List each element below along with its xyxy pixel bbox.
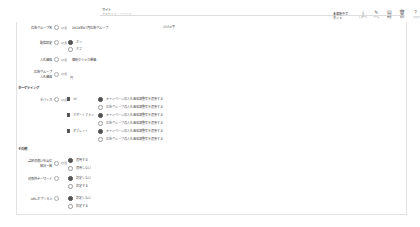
pc-campaign-radio[interactable]: キャンペーンの入札価格調整率を適用する — [98, 97, 163, 102]
exclude-none-radio[interactable]: 設定しない — [68, 176, 91, 181]
help-circle-icon[interactable] — [54, 176, 59, 181]
toolbar: 未編集中ボタン ▾ ⤓レポート ✎ツール ▤管理 🗑削除 ?ヘルプ — [333, 10, 420, 20]
help-circle-icon[interactable] — [54, 72, 59, 77]
sp-adgroup-radio[interactable]: 広告グループの入札価格調整率を適用する — [98, 121, 163, 126]
devices-row: デバイス 必須 — [16, 97, 69, 102]
device-smartphone-checkbox[interactable]: スマートフォン — [67, 113, 94, 117]
pc-adgroup-radio[interactable]: 広告グループの入札価格調整率を適用する — [98, 105, 163, 110]
ad-group-name-input[interactable]: 2019年07月広告グループ — [72, 25, 108, 30]
help-circle-icon[interactable] — [54, 40, 59, 45]
bid-input[interactable]: 円 — [70, 76, 73, 80]
report-button[interactable]: ⤓レポート — [359, 10, 368, 19]
device-tablet-checkbox[interactable]: タブレット — [67, 129, 88, 133]
help-button[interactable]: ?ヘルプ — [411, 10, 420, 19]
char-counter: 15/50字 — [163, 25, 175, 29]
url-none-radio[interactable]: 設定しない — [68, 196, 91, 201]
status-dropdown[interactable]: 未編集中ボタン ▾ — [333, 12, 351, 20]
phrase-match-row: 語順の違いを含む 部分一致 必須 — [16, 158, 69, 168]
help-circle-icon[interactable] — [54, 57, 59, 62]
tab-campaign-radio[interactable]: キャンペーンの入札価格調整率を適用する — [98, 129, 163, 134]
phrase-apply-radio[interactable]: 適用する — [68, 158, 88, 163]
page-subtitle: アカウント・ソリッド — [102, 12, 132, 16]
sp-campaign-radio[interactable]: キャンペーンの入札価格調整率を適用する — [98, 113, 163, 118]
delivery-off-radio[interactable]: オフ — [68, 47, 82, 52]
ad-group-name-row: 広告グループ名 必須 2019年07月広告グループ — [16, 25, 108, 30]
exclude-set-radio[interactable]: 設定する — [68, 184, 88, 189]
help-circle-icon[interactable] — [54, 196, 59, 201]
delivery-on-radio[interactable]: オン — [68, 40, 82, 45]
device-pc-checkbox[interactable]: PC — [67, 97, 77, 101]
delete-button[interactable]: 🗑削除 — [398, 10, 407, 19]
help-circle-icon[interactable] — [54, 25, 59, 30]
phrase-noapply-radio[interactable]: 適用しない — [68, 166, 91, 171]
other-section-title: その他 — [18, 146, 27, 151]
bid-row: 入札価格 必須 個別クリック単価 — [16, 57, 96, 62]
tab-adgroup-radio[interactable]: 広告グループの入札価格調整率を適用する — [98, 137, 163, 142]
url-set-radio[interactable]: 設定する — [68, 204, 88, 209]
exclude-keywords-row: 対象外キーワード — [16, 176, 59, 181]
targeting-section-title: ターゲティング — [18, 85, 39, 90]
delivery-row: 配信設定 必須 — [16, 40, 69, 45]
ad-group-bid-row: 広告グループ 入札価格 必須 — [16, 69, 69, 79]
tool-button[interactable]: ✎ツール — [372, 10, 381, 19]
help-circle-icon[interactable] — [54, 161, 59, 166]
help-circle-icon[interactable] — [54, 97, 59, 102]
manage-button[interactable]: ▤管理 — [385, 10, 394, 19]
url-option-row: URLオプション — [16, 196, 59, 201]
